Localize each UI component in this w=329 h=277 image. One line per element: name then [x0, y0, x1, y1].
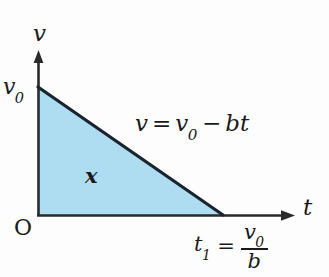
v-initial-subscript: 0 — [15, 90, 24, 106]
equation-term2: bt — [225, 110, 249, 136]
t1-symbol-group: t1 — [194, 234, 211, 259]
t1-fraction: v0 b — [241, 222, 268, 272]
t-axis-arrowhead-icon — [281, 210, 295, 221]
equation-lhs: v — [135, 110, 148, 136]
origin-label: O — [14, 217, 32, 239]
t1-fraction-denominator: b — [245, 250, 264, 272]
t1-subscript: 1 — [202, 247, 211, 263]
v-axis-arrowhead-icon — [34, 50, 44, 63]
t1-equals: = — [217, 236, 235, 257]
equation-minus: − — [202, 110, 221, 136]
area-label: x — [85, 165, 98, 186]
equation-equals: = — [152, 110, 171, 136]
v-axis-label: v — [33, 22, 46, 45]
v-initial-symbol: v — [3, 74, 15, 99]
equation-term1-subscript: 0 — [188, 126, 198, 144]
line-equation-label: v=v0−bt — [135, 112, 249, 140]
t1-numerator-subscript: 0 — [255, 234, 264, 250]
t1-label: t1 = v0 b — [194, 222, 268, 272]
v-initial-tick-label: v0 — [3, 76, 25, 102]
velocity-time-graph-figure: v t v0 O x v=v0−bt t1 = v0 b — [0, 0, 329, 277]
t1-numerator-symbol: v — [244, 220, 256, 244]
t-axis-label: t — [303, 196, 312, 219]
t1-fraction-numerator: v0 — [241, 222, 268, 248]
equation-term1: v — [175, 110, 188, 136]
